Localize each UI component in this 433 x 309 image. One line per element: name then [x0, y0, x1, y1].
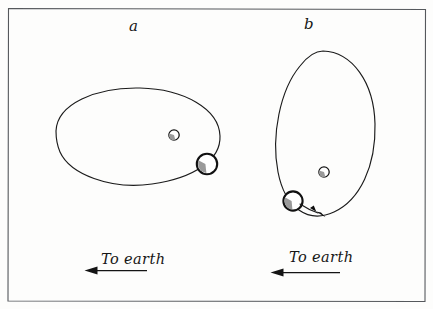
figure-canvas	[0, 0, 433, 309]
body-small-b	[319, 167, 330, 178]
caption-arrow-b	[271, 269, 341, 277]
caption-to-earth-b: To earth	[289, 249, 353, 265]
body-small-a	[169, 130, 180, 141]
panel-a-group	[56, 88, 220, 185]
orbit-path-a	[56, 88, 220, 185]
body-large-a	[197, 154, 218, 174]
panel-label-a: a	[129, 17, 138, 35]
motion-arrow-tail-b	[300, 204, 318, 213]
panel-label-b: b	[304, 15, 314, 33]
figure-border	[8, 9, 426, 302]
body-large-b	[283, 191, 302, 210]
caption-to-earth-a: To earth	[101, 251, 165, 267]
caption-arrow-a	[85, 267, 148, 275]
figure-root: a b To earth To earth	[0, 0, 433, 309]
panel-b-group	[276, 51, 375, 217]
